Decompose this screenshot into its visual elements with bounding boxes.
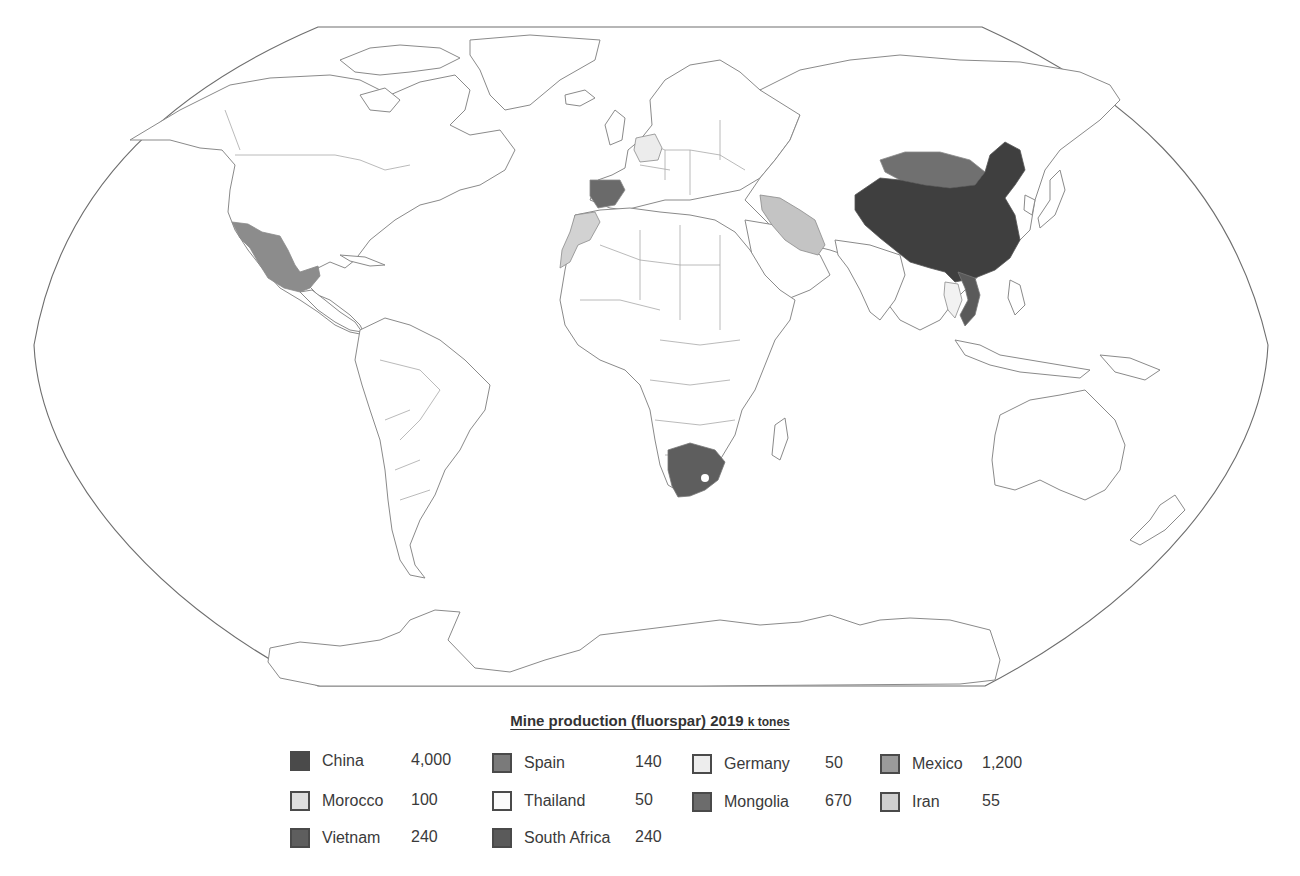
legend-item-thailand: Thailand 50 — [492, 790, 585, 812]
legend-item-mongolia: Mongolia 670 — [692, 791, 789, 813]
swatch — [492, 791, 512, 811]
arctic-islands — [340, 45, 460, 75]
uk — [605, 110, 625, 145]
legend-item-spain: Spain 140 — [492, 752, 565, 774]
legend-item-vietnam: Vietnam 240 — [290, 827, 380, 849]
indonesia — [955, 340, 1090, 378]
swatch — [692, 754, 712, 774]
swatch — [290, 791, 310, 811]
legend-item-iran: Iran 55 — [880, 791, 940, 813]
swatch — [880, 792, 900, 812]
north-america — [130, 75, 515, 335]
swatch — [492, 828, 512, 848]
legend-item-mexico: Mexico 1,200 — [880, 753, 963, 775]
antarctica — [268, 610, 1000, 686]
swatch — [290, 751, 310, 771]
philippines — [1008, 280, 1025, 315]
world-map — [0, 0, 1300, 700]
south-america — [355, 318, 490, 578]
new-guinea — [1100, 355, 1160, 380]
legend-item-germany: Germany 50 — [692, 753, 790, 775]
legend-item-south-africa: South Africa 240 — [492, 827, 610, 849]
madagascar — [772, 418, 788, 460]
australia — [992, 390, 1125, 500]
central-america — [300, 290, 362, 332]
lesotho — [701, 474, 709, 482]
swatch — [290, 828, 310, 848]
swatch — [880, 754, 900, 774]
new-zealand — [1130, 495, 1185, 545]
legend-item-morocco: Morocco 100 — [290, 790, 383, 812]
legend-item-china: China 4,000 — [290, 750, 364, 772]
swatch — [492, 753, 512, 773]
legend-title: Mine production (fluorspar) 2019 k tones — [0, 712, 1300, 729]
legend: Mine production (fluorspar) 2019 k tones… — [0, 705, 1300, 876]
swatch — [692, 792, 712, 812]
iceland — [565, 90, 595, 106]
